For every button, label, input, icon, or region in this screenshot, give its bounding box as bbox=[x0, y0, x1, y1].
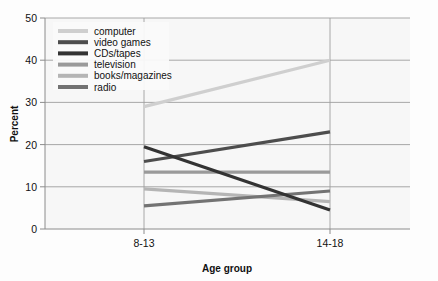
y-tick-label: 50 bbox=[25, 12, 37, 24]
legend-label-video-games: video games bbox=[94, 37, 151, 48]
y-tick-label: 0 bbox=[31, 223, 37, 235]
legend-label-radio: radio bbox=[94, 82, 117, 93]
y-tick-label: 20 bbox=[25, 139, 37, 151]
legend-label-computer: computer bbox=[94, 26, 136, 37]
chart-container: 01020304050 8-1314-18 Percent Age group … bbox=[0, 0, 438, 281]
legend-swatch-radio bbox=[58, 85, 88, 89]
line-chart: 01020304050 8-1314-18 Percent Age group … bbox=[0, 0, 438, 281]
legend-swatch-television bbox=[58, 63, 88, 67]
legend-swatch-cds-tapes bbox=[58, 51, 88, 55]
y-tick-label: 10 bbox=[25, 181, 37, 193]
y-tick-label: 30 bbox=[25, 96, 37, 108]
y-tick-label: 40 bbox=[25, 54, 37, 66]
x-tick-label: 14-18 bbox=[317, 237, 344, 249]
x-axis-title: Age group bbox=[202, 263, 252, 274]
legend-swatch-books-magazines bbox=[58, 74, 88, 78]
legend: computervideo gamesCDs/tapestelevisionbo… bbox=[53, 22, 172, 93]
y-axis-title: Percent bbox=[9, 105, 20, 142]
legend-swatch-computer bbox=[58, 29, 88, 33]
x-tick-label: 8-13 bbox=[133, 237, 154, 249]
legend-swatch-video-games bbox=[58, 40, 88, 44]
legend-label-television: television bbox=[94, 59, 136, 70]
legend-label-books-magazines: books/magazines bbox=[94, 70, 172, 81]
legend-label-cds-tapes: CDs/tapes bbox=[94, 48, 141, 59]
